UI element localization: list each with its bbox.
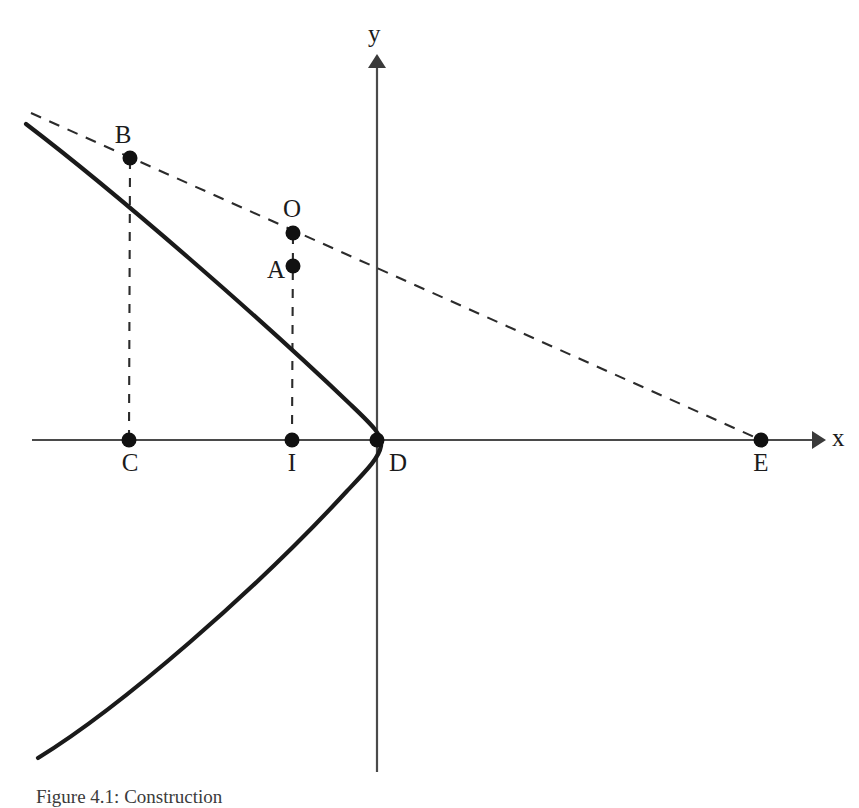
point-a[interactable]	[286, 259, 301, 274]
point-group	[122, 151, 769, 448]
point-label-o: O	[283, 195, 301, 222]
y-axis	[368, 54, 386, 772]
point-label-group: B O A C I D E	[115, 121, 769, 476]
point-c[interactable]	[122, 433, 137, 448]
x-axis-label: x	[832, 424, 845, 451]
point-label-b: B	[115, 121, 132, 148]
drop-line-b-to-c	[129, 160, 130, 438]
point-label-a: A	[267, 256, 285, 283]
y-axis-arrowhead	[368, 54, 386, 68]
point-o[interactable]	[286, 226, 301, 241]
point-d[interactable]	[370, 433, 385, 448]
y-axis-label: y	[368, 20, 381, 47]
point-label-d: D	[389, 449, 407, 476]
point-b[interactable]	[123, 151, 138, 166]
point-i[interactable]	[285, 433, 300, 448]
point-label-e: E	[753, 449, 768, 476]
figure-caption: Figure 4.1: Construction	[36, 786, 836, 808]
x-axis-arrowhead	[812, 431, 826, 449]
point-label-i: I	[288, 449, 296, 476]
tangent-line	[31, 113, 761, 440]
x-axis	[32, 431, 826, 449]
point-e[interactable]	[754, 433, 769, 448]
point-label-c: C	[122, 449, 139, 476]
